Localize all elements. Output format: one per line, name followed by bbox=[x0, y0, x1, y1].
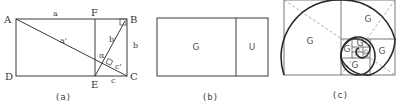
diagonal-dashed-2 bbox=[341, 0, 395, 75]
figure: A F B C D E a a' b b' c c' α (a) G U (b) bbox=[0, 0, 403, 108]
region-g-7: G bbox=[364, 48, 369, 55]
point-b-label: B bbox=[130, 14, 137, 25]
diagonal-dashed-1 bbox=[284, 0, 395, 75]
point-c-label: C bbox=[130, 71, 138, 82]
segment-a-prime-label: a' bbox=[60, 36, 67, 45]
region-u-label: U bbox=[249, 42, 256, 52]
region-g-3: G bbox=[379, 46, 386, 56]
region-g-6: G bbox=[357, 38, 364, 48]
point-e-label: E bbox=[91, 79, 98, 90]
caption-a: (a) bbox=[55, 92, 71, 102]
panel-b: G U (b) bbox=[157, 18, 268, 102]
region-g-4: G bbox=[352, 60, 359, 70]
segment-b-prime-label: b' bbox=[109, 35, 116, 44]
right-angle-intersection-icon bbox=[106, 59, 113, 66]
segment-a-label: a bbox=[53, 9, 58, 18]
panel-c: G G G G G G G G (c) bbox=[281, 0, 395, 100]
segment-c-prime-label: c' bbox=[115, 62, 122, 71]
region-g-2: G bbox=[365, 14, 372, 24]
panel-a: A F B C D E a a' b b' c c' α (a) bbox=[3, 7, 138, 102]
region-g-5: G bbox=[344, 44, 351, 54]
caption-c: (c) bbox=[332, 90, 348, 100]
segment-b-label: b bbox=[133, 41, 138, 50]
segment-c-label: c bbox=[111, 76, 116, 85]
caption-b: (b) bbox=[202, 92, 218, 102]
angle-alpha-label: α bbox=[99, 51, 105, 60]
point-f-label: F bbox=[91, 7, 98, 18]
region-g-label: G bbox=[193, 42, 200, 52]
point-d-label: D bbox=[5, 71, 13, 82]
point-a-label: A bbox=[3, 14, 12, 25]
region-g-8: G bbox=[355, 51, 359, 57]
region-g-1: G bbox=[307, 36, 314, 46]
